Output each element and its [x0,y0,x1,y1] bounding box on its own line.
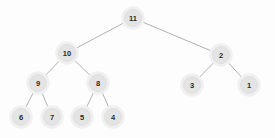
tree-node[interactable]: 7 [40,105,63,128]
node-label: 5 [80,113,84,122]
tree-node[interactable]: 9 [26,71,49,94]
node-label: 2 [219,51,223,60]
tree-node[interactable]: 3 [180,73,203,96]
tree-edge [133,18,221,55]
node-label: 9 [36,79,40,88]
tree-node[interactable]: 2 [209,43,232,66]
tree-node[interactable]: 10 [55,41,78,64]
tree-edges [21,18,249,117]
tree-node[interactable]: 4 [101,105,124,128]
tree-node[interactable]: 8 [86,71,109,94]
node-label: 1 [247,81,251,90]
node-label: 7 [50,113,54,122]
node-label: 8 [96,79,100,88]
node-label: 11 [129,14,137,23]
tree-nodes: 1110298316754 [9,6,260,128]
node-label: 3 [190,81,194,90]
tree-canvas: 1110298316754 [0,0,275,138]
tree-node[interactable]: 6 [9,105,32,128]
tree-node[interactable]: 1 [237,73,260,96]
tree-node[interactable]: 11 [121,6,144,29]
node-label: 6 [19,113,23,122]
tree-node[interactable]: 5 [70,105,93,128]
node-label: 10 [63,49,71,58]
binary-tree-diagram: 1110298316754 [0,0,275,138]
